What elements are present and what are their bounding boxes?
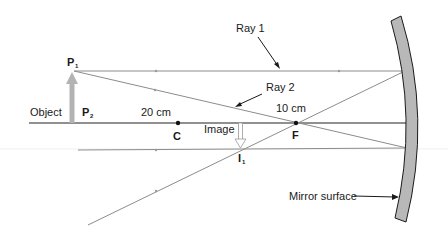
ray1-pointer [258, 37, 278, 66]
mirror-pointer-head [392, 194, 399, 200]
p2-label: P 2 [82, 106, 94, 119]
object-arrow-head [66, 72, 78, 84]
p1-label: P 1 [67, 56, 79, 69]
ray-diagram: Ray 1 Ray 2 Object Image 20 cm 10 cm C F… [0, 0, 448, 240]
mirror-surface [391, 16, 418, 222]
svg-text:P: P [67, 56, 74, 68]
svg-text:P: P [82, 106, 89, 118]
image-label: Image [204, 123, 235, 135]
i1-label: I 1 [238, 152, 246, 165]
dist-f-label: 10 cm [276, 102, 306, 114]
direction-marks [154, 70, 340, 192]
center-label: C [173, 130, 181, 142]
svg-text:1: 1 [75, 63, 79, 69]
svg-text:1: 1 [242, 159, 246, 165]
svg-text:2: 2 [90, 113, 94, 119]
svg-text:I: I [238, 152, 241, 164]
dist-c-label: 20 cm [141, 106, 171, 118]
image-arrow-shaft [239, 123, 243, 140]
center-point [176, 121, 180, 125]
ray1-label: Ray 1 [236, 22, 265, 34]
object-label: Object [30, 106, 62, 118]
ray2-label: Ray 2 [266, 81, 295, 93]
ray1-pointer-head [274, 62, 280, 69]
object-arrow-shaft [70, 82, 75, 123]
ray2-pointer [238, 94, 262, 105]
ray2-pointer-head [235, 102, 242, 107]
focus-point [294, 121, 298, 125]
image-arrow-head [235, 139, 246, 148]
focus-label: F [292, 129, 299, 141]
mirror-label: Mirror surface [289, 190, 357, 202]
mirror-pointer [354, 196, 395, 197]
